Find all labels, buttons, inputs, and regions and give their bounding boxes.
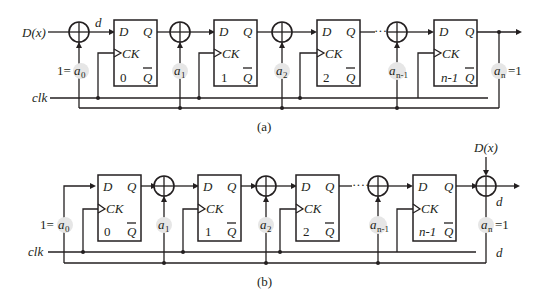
flipflop-b-n-1: D Q CK n-1 Q bbox=[413, 175, 456, 241]
flipflop-1: D Q CK 1 Q bbox=[214, 20, 257, 86]
svg-text:D: D bbox=[300, 179, 311, 194]
svg-text:D: D bbox=[417, 179, 428, 194]
xor-gate-b-1 bbox=[154, 176, 174, 196]
coef-an-1: a n-1 bbox=[388, 62, 408, 80]
svg-text:2: 2 bbox=[283, 70, 288, 80]
svg-text:n-1: n-1 bbox=[441, 70, 458, 85]
svg-text:Q: Q bbox=[465, 24, 475, 39]
svg-text:Q: Q bbox=[465, 70, 475, 85]
svg-text:CK: CK bbox=[304, 201, 323, 216]
svg-text:Q: Q bbox=[127, 179, 137, 194]
svg-text:Q: Q bbox=[243, 24, 253, 39]
xor-gate-2 bbox=[272, 22, 292, 42]
svg-text:D: D bbox=[438, 24, 449, 39]
svg-text:Q: Q bbox=[227, 179, 237, 194]
panel-a-clock-label: clk bbox=[32, 90, 47, 105]
svg-text:Q: Q bbox=[325, 224, 335, 239]
coef-b-an: a n =1 bbox=[478, 217, 509, 234]
svg-text:a: a bbox=[74, 63, 81, 78]
xor-gate-b-n-1 bbox=[368, 176, 388, 196]
panel-b-caption: (b) bbox=[257, 274, 272, 289]
svg-text:n-1: n-1 bbox=[419, 224, 436, 239]
coef-b-a2: a 2 bbox=[258, 217, 274, 234]
svg-text:1: 1 bbox=[205, 224, 212, 239]
svg-text:Q: Q bbox=[227, 224, 237, 239]
coef-a1: a 1 bbox=[172, 63, 188, 80]
svg-text:2: 2 bbox=[323, 70, 330, 85]
svg-text:D: D bbox=[321, 24, 332, 39]
svg-text:Q: Q bbox=[346, 70, 356, 85]
svg-text:a: a bbox=[481, 217, 488, 232]
xor-gate-n-1 bbox=[387, 22, 407, 42]
xor-gate-1 bbox=[170, 22, 190, 42]
coef-b-a0: 1= a 0 bbox=[40, 217, 73, 234]
svg-text:a: a bbox=[174, 63, 181, 78]
svg-text:D: D bbox=[118, 24, 129, 39]
svg-text:Q: Q bbox=[243, 70, 253, 85]
svg-text:CK: CK bbox=[442, 46, 461, 61]
svg-text:a: a bbox=[158, 217, 165, 232]
flipflop-0: D Q CK 0 Q bbox=[114, 20, 157, 86]
coef-b-a1: a 1 bbox=[156, 217, 172, 234]
coef-b-an-1: a n-1 bbox=[369, 216, 389, 234]
svg-text:1: 1 bbox=[221, 70, 228, 85]
svg-text:Q: Q bbox=[325, 179, 335, 194]
svg-text:Q: Q bbox=[346, 24, 356, 39]
svg-text:n: n bbox=[501, 70, 506, 80]
coef-an: a n =1 bbox=[491, 63, 522, 80]
svg-text:1=: 1= bbox=[57, 63, 71, 78]
panel-a-caption: (a) bbox=[257, 119, 271, 134]
panel-a-feedback-d-label: d bbox=[95, 15, 102, 30]
svg-text:D: D bbox=[218, 24, 229, 39]
crc-circuit-diagram: D(x) d D Q CK 0 Q bbox=[0, 0, 542, 294]
svg-text:2: 2 bbox=[303, 224, 310, 239]
svg-text:Q: Q bbox=[127, 224, 137, 239]
coef-a2: a 2 bbox=[274, 63, 290, 80]
svg-text:=1: =1 bbox=[508, 63, 522, 78]
svg-text:=1: =1 bbox=[495, 217, 509, 232]
panel-a: D(x) d D Q CK 0 Q bbox=[21, 15, 522, 134]
panel-b-input-label: D(x) bbox=[473, 140, 498, 155]
svg-text:CK: CK bbox=[325, 46, 344, 61]
svg-text:a: a bbox=[276, 63, 283, 78]
panel-b-output-d-label: d bbox=[496, 194, 503, 209]
panel-b-feedback-d-label: d bbox=[496, 245, 503, 260]
svg-text:D: D bbox=[102, 179, 113, 194]
svg-text:CK: CK bbox=[122, 46, 141, 61]
panel-b-ellipsis: ···· bbox=[352, 177, 369, 192]
flipflop-b-1: D Q CK 1 Q bbox=[198, 175, 241, 241]
svg-text:1: 1 bbox=[165, 224, 170, 234]
panel-b-clock-label: clk bbox=[28, 244, 43, 259]
svg-text:a: a bbox=[260, 217, 267, 232]
svg-text:CK: CK bbox=[421, 201, 440, 216]
svg-text:0: 0 bbox=[104, 224, 111, 239]
svg-text:D: D bbox=[202, 179, 213, 194]
svg-text:CK: CK bbox=[106, 201, 125, 216]
svg-text:n: n bbox=[488, 224, 493, 234]
svg-text:Q: Q bbox=[444, 179, 454, 194]
svg-text:a: a bbox=[370, 217, 377, 232]
flipflop-b-2: D Q CK 2 Q bbox=[296, 175, 339, 241]
panel-a-input-label: D(x) bbox=[21, 25, 46, 40]
svg-text:a: a bbox=[389, 63, 396, 78]
svg-text:Q: Q bbox=[143, 24, 153, 39]
svg-text:CK: CK bbox=[222, 46, 241, 61]
svg-text:a: a bbox=[58, 217, 65, 232]
xor-gate-b-n bbox=[476, 176, 496, 196]
coef-a0: 1= a 0 bbox=[57, 63, 89, 80]
svg-text:0: 0 bbox=[120, 70, 127, 85]
svg-text:Q: Q bbox=[444, 224, 454, 239]
svg-text:1=: 1= bbox=[40, 217, 54, 232]
xor-gate-b-2 bbox=[256, 176, 276, 196]
xor-gate-0 bbox=[69, 22, 89, 42]
svg-text:0: 0 bbox=[81, 70, 86, 80]
svg-text:2: 2 bbox=[267, 224, 272, 234]
svg-text:a: a bbox=[494, 63, 501, 78]
flipflop-n-1: D Q CK n-1 Q bbox=[434, 20, 477, 86]
svg-text:n-1: n-1 bbox=[396, 70, 408, 80]
panel-b: D Q CK 0 Q D Q CK 1 Q bbox=[28, 140, 520, 289]
svg-text:1: 1 bbox=[181, 70, 186, 80]
svg-text:CK: CK bbox=[206, 201, 225, 216]
svg-text:n-1: n-1 bbox=[377, 224, 389, 234]
svg-text:0: 0 bbox=[65, 224, 70, 234]
